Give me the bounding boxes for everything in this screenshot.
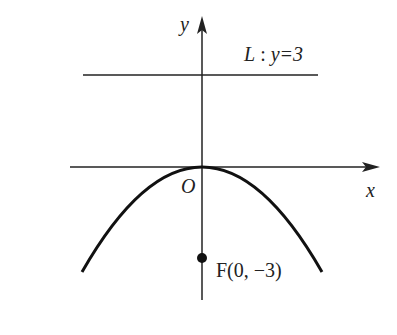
y-axis-label: y bbox=[180, 14, 189, 34]
origin-label: O bbox=[181, 176, 195, 196]
directrix-sep: : bbox=[255, 43, 271, 65]
diagram-canvas bbox=[0, 0, 397, 335]
directrix-equation: y=3 bbox=[271, 43, 303, 65]
focus-label: F(0, −3) bbox=[216, 260, 282, 280]
directrix-label: L : y=3 bbox=[244, 44, 303, 64]
x-axis-label: x bbox=[366, 180, 375, 200]
focus-point bbox=[197, 253, 207, 263]
directrix-name: L bbox=[244, 43, 255, 65]
